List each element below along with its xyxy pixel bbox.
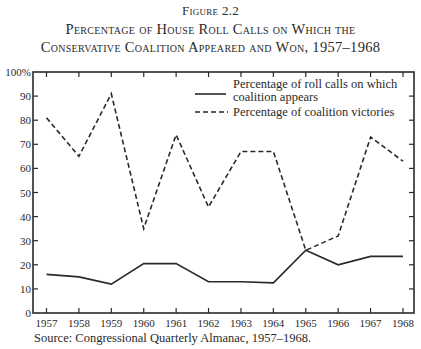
- y-tick-label: 90: [20, 90, 32, 102]
- y-tick-label: 80: [20, 114, 32, 126]
- y-axis-labels: 0102030405060708090100%: [5, 66, 31, 319]
- y-tick-label: 10: [20, 283, 32, 295]
- x-tick-label: 1966: [327, 317, 350, 329]
- x-axis-labels: 1957195819591960196119621963196419651966…: [36, 317, 415, 329]
- legend-label: Percentage of coalition victories: [233, 105, 395, 119]
- legend-label: coalition appears: [233, 90, 318, 104]
- y-tick-label: 40: [20, 211, 32, 223]
- series-coalition-appears: [47, 250, 404, 284]
- line-chart: 0102030405060708090100% 1957195819591960…: [0, 0, 421, 349]
- y-tick-label: 100%: [5, 66, 31, 78]
- x-tick-label: 1963: [230, 317, 253, 329]
- x-tick-label: 1959: [100, 317, 123, 329]
- legend-label: Percentage of roll calls on which: [233, 77, 398, 91]
- y-tick-label: 70: [20, 138, 32, 150]
- x-tick-label: 1968: [392, 317, 415, 329]
- source-note: Source: Congressional Quarterly Almanac,…: [34, 331, 311, 346]
- x-tick-label: 1967: [360, 317, 383, 329]
- y-tick-label: 30: [20, 235, 32, 247]
- y-tick-label: 20: [20, 259, 32, 271]
- x-tick-label: 1962: [198, 317, 220, 329]
- data-series: [47, 94, 404, 284]
- y-tick-label: 0: [26, 307, 32, 319]
- y-tick-label: 60: [20, 162, 32, 174]
- x-tick-label: 1964: [262, 317, 285, 329]
- x-tick-label: 1960: [133, 317, 156, 329]
- y-tick-label: 50: [20, 187, 32, 199]
- legend: Percentage of roll calls on whichcoaliti…: [195, 77, 398, 119]
- x-tick-label: 1961: [165, 317, 187, 329]
- x-tick-label: 1958: [68, 317, 91, 329]
- x-tick-label: 1965: [295, 317, 318, 329]
- x-tick-label: 1957: [36, 317, 59, 329]
